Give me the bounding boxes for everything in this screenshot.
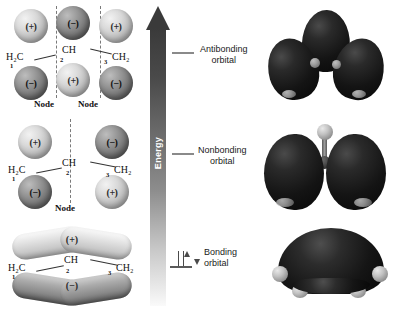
orbital-lobe: (+) [56, 63, 90, 97]
level-label-line2: orbital [198, 156, 247, 167]
orbital-lobe-top: (+) [12, 226, 132, 256]
orbital-lobe: (+) [95, 175, 129, 209]
carbon-number-1: 1 [10, 62, 13, 69]
level-label-line1: Antibonding [200, 44, 248, 54]
skeleton-right-label: CH₂ [112, 51, 129, 62]
carbon-number-2: 2 [66, 169, 69, 176]
carbon-number-3: 3 [106, 171, 109, 178]
carbon-number-3: 3 [108, 269, 111, 276]
hydrogen-sphere [310, 58, 320, 68]
orbital-lobe: (−) [56, 6, 90, 40]
node-label: Node [78, 99, 98, 109]
nonbonding-orbital-diagram: (+) (−) (−) (+) H₂C CH CH₂ 1 2 3 Node [0, 113, 146, 215]
level-label-antibonding: Antibonding orbital [200, 44, 248, 66]
skeleton-center-label: CH [62, 44, 76, 55]
level-label-bonding: Bonding orbital [204, 247, 237, 269]
level-tick [170, 266, 192, 268]
orbital-lobe-3d [264, 134, 324, 210]
orbital-lobe: (−) [14, 66, 48, 100]
energy-level-bonding [170, 248, 194, 268]
orbital-lobe: (+) [14, 9, 48, 43]
skeleton-left-label: H₂C [6, 51, 23, 62]
node-label: Node [34, 99, 54, 109]
level-label-line2: orbital [204, 258, 237, 269]
orbital-sign-top: (+) [12, 234, 132, 245]
arrow-shaft: Energy [150, 28, 166, 306]
hydrogen-sphere [276, 198, 294, 207]
nonbonding-space-filling-model [262, 114, 392, 214]
skeleton-right-label: CH₂ [116, 262, 133, 273]
orbital-lobe: (+) [18, 125, 52, 159]
orbital-lobe-bottom: (−) [12, 274, 132, 304]
antibonding-space-filling-model [266, 4, 390, 106]
energy-axis-label: Energy [153, 123, 163, 183]
orbital-lobe: (−) [18, 175, 52, 209]
level-label-line2: orbital [200, 55, 248, 66]
carbon-number-2: 2 [66, 267, 69, 274]
carbon-number-1: 1 [12, 273, 15, 280]
arrow-head-icon [146, 6, 170, 30]
electron-spin-up-icon [178, 251, 179, 266]
bond-2-3 [90, 49, 112, 55]
bonding-orbital-diagram: (+) (−) H₂C CH CH₂ 1 2 3 [0, 222, 146, 318]
hydrogen-sphere [272, 266, 288, 282]
level-label-line1: Bonding [204, 247, 237, 257]
carbon-number-1: 1 [12, 175, 15, 182]
hydrogen-sphere [354, 198, 372, 207]
carbon-number-3: 3 [104, 58, 107, 65]
carbon-number-2: 2 [60, 56, 63, 63]
hydrogen-sphere [317, 124, 333, 140]
hydrogen-sphere [372, 266, 388, 282]
hydrogen-sphere [332, 60, 341, 69]
bond-1-2 [36, 265, 64, 271]
hydrogen-sphere [282, 90, 296, 98]
bonding-space-filling-model [272, 226, 390, 314]
level-label-line1: Nonbonding [198, 145, 247, 155]
skeleton-center-label: CH [62, 157, 76, 168]
skeleton-left-label: H₂C [8, 164, 25, 175]
bond-1-2 [34, 55, 56, 61]
level-label-nonbonding: Nonbonding orbital [198, 145, 247, 167]
orbital-lobe: (−) [95, 125, 129, 159]
antibonding-orbital-diagram: (+) (−) (+) (−) (+) (−) H₂C CH CH₂ 1 2 3… [0, 0, 146, 110]
hydrogen-sphere [352, 90, 366, 98]
skeleton-center-label: CH [64, 254, 78, 265]
bond-2-3 [90, 259, 118, 265]
energy-level-antibonding [172, 52, 194, 54]
skeleton-right-label: CH₂ [114, 164, 131, 175]
orbital-lobe: (+) [99, 9, 133, 43]
node-label: Node [55, 203, 75, 213]
bond-2-3 [90, 162, 116, 168]
mo-diagram-figure: (+) (−) (+) (−) (+) (−) H₂C CH CH₂ 1 2 3… [0, 0, 394, 320]
orbital-lobe: (−) [99, 66, 133, 100]
energy-level-nonbonding [172, 153, 194, 155]
energy-axis-arrow: Energy [146, 6, 170, 306]
orbital-sign-bottom: (−) [12, 280, 132, 291]
skeleton-left-label: H₂C [8, 262, 25, 273]
bond-1-2 [36, 168, 62, 174]
electron-spin-down-icon [183, 251, 184, 266]
